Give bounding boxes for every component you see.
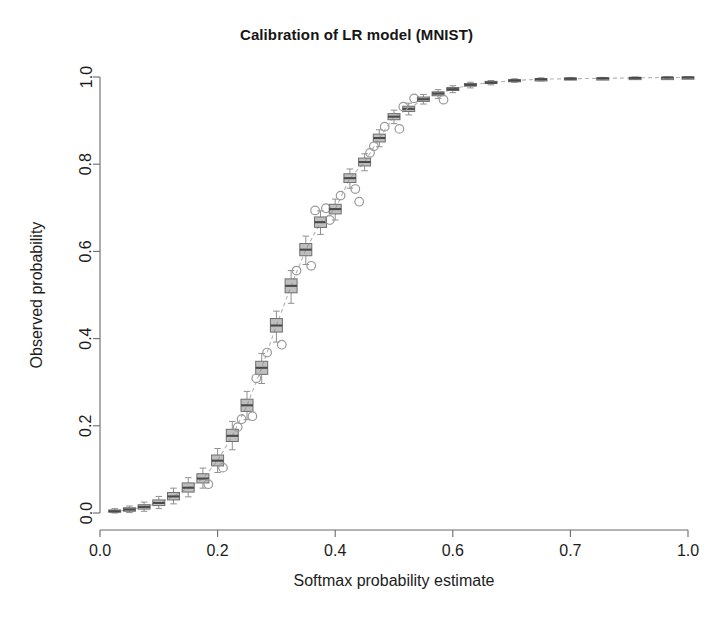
outlier-point — [439, 95, 448, 104]
x-axis-tick-label: 0.7 — [559, 542, 581, 559]
boxplot-item — [237, 391, 256, 423]
median-connector-line — [115, 77, 688, 511]
y-axis-tick-label: 0.4 — [78, 327, 95, 349]
boxplot-layer — [109, 77, 694, 513]
x-axis-tick-label: 0.6 — [442, 542, 464, 559]
calibration-chart-figure: Calibration of LR model (MNIST) 0.00.20.… — [0, 0, 713, 624]
boxplot-item — [326, 191, 345, 224]
boxplot-item — [485, 80, 497, 84]
boxplot-item — [182, 478, 194, 497]
boxplot-item — [682, 77, 694, 79]
boxplot-item — [597, 77, 609, 80]
boxplot-item — [285, 266, 301, 303]
boxplot-item — [212, 448, 228, 472]
boxplot-item — [388, 110, 404, 133]
outlier-point — [351, 185, 360, 194]
outlier-point — [248, 412, 257, 421]
outlier-point — [395, 125, 404, 134]
plot-area: 0.00.20.40.60.81.00.00.20.40.60.71.0Soft… — [0, 0, 713, 624]
x-axis-tick-label: 0.2 — [206, 542, 228, 559]
boxplot-item — [629, 77, 641, 80]
outlier-point — [278, 340, 287, 349]
boxplot-item — [464, 82, 476, 88]
x-axis-title: Softmax probability estimate — [294, 572, 495, 589]
boxplot-item — [226, 421, 242, 449]
boxplot-item — [153, 496, 165, 508]
x-axis-tick-label: 0.4 — [324, 542, 346, 559]
boxplot-item — [535, 78, 547, 81]
boxplot-item — [344, 169, 360, 193]
y-axis-tick-label: 0.0 — [78, 502, 95, 524]
boxplot-item — [311, 204, 330, 234]
y-axis-tick-label: 1.0 — [78, 66, 95, 88]
y-axis-tick-label: 0.2 — [78, 415, 95, 437]
boxplot-item — [432, 90, 448, 104]
axis-layer — [93, 77, 688, 537]
outlier-point — [336, 191, 345, 200]
y-axis-tick-label: 0.8 — [78, 153, 95, 175]
boxplot-item — [447, 86, 459, 93]
outlier-point — [263, 348, 272, 357]
outlier-point — [307, 261, 316, 270]
boxplot-item — [270, 311, 286, 349]
boxplot-item — [564, 77, 576, 80]
boxplot-item — [300, 236, 316, 270]
connector-line-layer — [115, 77, 688, 511]
x-axis-tick-label: 0.0 — [89, 542, 111, 559]
outlier-point — [252, 374, 261, 383]
boxplot-item — [123, 506, 135, 513]
boxplot-item — [252, 348, 271, 383]
boxplot-item — [370, 122, 389, 150]
boxplot-item — [138, 502, 150, 511]
y-axis-title: Observed probability — [28, 222, 45, 369]
boxplot-item — [109, 509, 121, 513]
y-axis-tick-label: 0.6 — [78, 240, 95, 262]
outlier-point — [355, 197, 364, 206]
boxplot-item — [509, 79, 521, 82]
boxplot-item — [197, 468, 213, 488]
boxplot-item — [168, 488, 180, 504]
boxplot-item — [417, 94, 429, 104]
boxplot-item — [661, 77, 673, 80]
x-axis-tick-label: 1.0 — [677, 542, 699, 559]
boxplot-item — [355, 149, 374, 206]
